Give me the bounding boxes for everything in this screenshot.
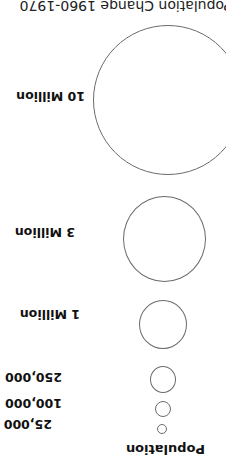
- symbol-circle-25000: [157, 424, 167, 434]
- symbol-circle-3-million: [123, 196, 206, 282]
- legend-label-3-million: 3 Million: [15, 225, 75, 240]
- legend-label-10-million: 10 Million: [16, 89, 85, 104]
- map-title: Population Change 1960-1970: [20, 0, 226, 14]
- legend-label-100000: 100,000: [5, 396, 62, 411]
- symbol-circle-1-million: [139, 300, 187, 349]
- population-legend-map-fragment: Population 25,000 100,000 250,000 1 Mill…: [0, 0, 226, 456]
- symbol-circle-10-million: [93, 25, 226, 175]
- legend-label-250000: 250,000: [5, 370, 62, 385]
- legend-label-1-million: 1 Million: [20, 307, 80, 322]
- symbol-circle-100000: [155, 401, 171, 417]
- legend-label-25000: 25,000: [4, 417, 52, 432]
- legend-header: Population: [126, 443, 205, 456]
- symbol-circle-250000: [150, 366, 176, 393]
